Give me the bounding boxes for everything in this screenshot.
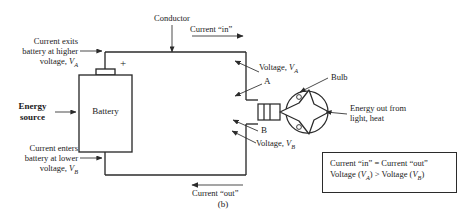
current-exits-label: Current exits battery at higher voltage,… [0,36,78,70]
point-b-label: B [261,125,267,135]
voltage-b-label: Voltage, VB [256,138,295,152]
conductor-label: Conductor [137,13,207,23]
energy-source-label: Energy source [10,101,55,123]
current-enters-line-1: Current enters [0,143,78,153]
current-exits-line-2: battery at higher [0,46,78,56]
bulb-leader [300,78,328,92]
energy-out-line-1: Energy out from [350,103,406,113]
energy-out-label: Energy out from light, heat [350,103,406,123]
bulb-label: Bulb [331,72,348,82]
current-enters-label: Current enters battery at lower voltage,… [0,143,78,177]
voltage-b-leader [232,131,256,143]
legend-box: Current “in” = Current “out” Voltage (VA… [322,152,457,193]
point-a-label: A [264,76,271,86]
current-in-label: Current “in” [190,24,232,34]
circuit-diagram-figure: Conductor Current “in” Current “out” Cur… [0,0,465,219]
current-enters-line-2: battery at lower [0,153,78,163]
battery-label: Battery [79,106,132,116]
current-out-label: Current “out” [192,188,239,198]
current-exits-line-1: Current exits [0,36,78,46]
legend-line-2: Voltage (VA) > Voltage (VB) [330,169,449,183]
bulb-symbol [258,90,329,134]
current-enters-line-3: voltage, VB [0,163,78,177]
current-exits-line-3: voltage, VA [0,56,78,70]
energy-out-line-2: light, heat [350,113,406,123]
energy-source-line-1: Energy [10,101,55,112]
point-a-leader [235,84,262,96]
voltage-a-label: Voltage, VA [259,62,298,76]
energy-out-leader [326,112,347,114]
battery-positive-terminal-sign: + [120,58,126,68]
legend-line-1: Current “in” = Current “out” [330,158,449,169]
figure-caption: (b) [208,199,238,209]
energy-source-line-2: source [10,112,55,123]
voltage-a-leader [235,61,259,72]
